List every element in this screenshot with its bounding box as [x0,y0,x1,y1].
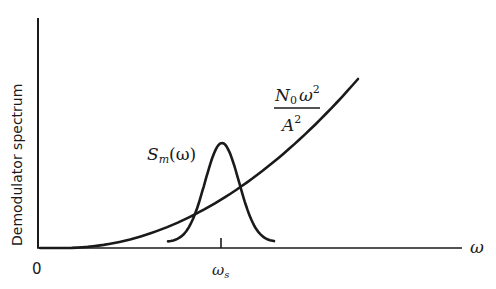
signal-label-sub: m [159,153,169,166]
svg-text:A2: A2 [280,113,301,135]
x-axis-label: ω [470,237,484,257]
y-axis-label: Demodulator spectrum [9,84,25,246]
noise-label-n-sub: 0 [290,94,297,107]
omega-s-main: ω [212,261,224,279]
signal-label-arg: (ω) [169,144,196,164]
signal-spectrum-label: Sm(ω) [147,144,196,166]
origin-label: 0 [32,260,42,278]
noise-label-omega-exp: 2 [313,83,320,96]
signal-label-s: S [147,144,159,164]
omega-s-label: ωs [212,261,229,280]
diagram-canvas: Demodulator spectrum 0 ω ωs N0ω2 A2 Sm(ω… [0,0,496,289]
svg-text:N0ω2: N0ω2 [274,83,320,107]
noise-label-omega: ω [299,85,313,105]
noise-label-n: N [274,85,291,105]
noise-label-a-exp: 2 [294,113,301,126]
omega-s-sub: s [224,269,229,280]
noise-label-a: A [280,115,294,135]
